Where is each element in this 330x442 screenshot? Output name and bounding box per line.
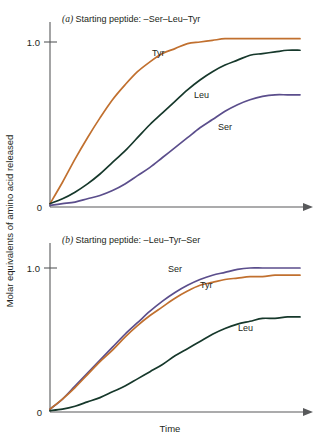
panel-a-title-text: Starting peptide: –Ser–Leu–Tyr <box>73 14 200 24</box>
curve-label-b-ser: Ser <box>168 264 182 274</box>
panel-b-ytick-label-1: 1.0 <box>27 263 40 274</box>
curve-label-b-leu: Leu <box>238 323 253 333</box>
panel-a-title: (a) Starting peptide: –Ser–Leu–Tyr <box>62 14 200 25</box>
panel-b-ytick-label-0: 0 <box>37 407 42 418</box>
figure-root: Molar equivalents of amino acid released… <box>0 0 330 442</box>
curve-label-a-ser: Ser <box>218 122 232 132</box>
y-axis-label: Molar equivalents of amino acid released <box>4 135 15 308</box>
panel-a-ytick-label-1: 1.0 <box>27 37 40 48</box>
panel-a-ytick-label-0: 0 <box>37 202 42 213</box>
panel-a-letter: (a) <box>62 14 73 25</box>
curve-label-b-tyr: Tyr <box>200 280 213 290</box>
curve-label-a-leu: Leu <box>194 90 209 100</box>
panel-b-title-text: Starting peptide: –Leu–Tyr–Ser <box>73 235 200 245</box>
panel-b-title: (b) Starting peptide: –Leu–Tyr–Ser <box>62 235 200 246</box>
curve-label-a-tyr: Tyr <box>152 48 165 58</box>
panel-b-letter: (b) <box>62 235 73 246</box>
x-axis-label: Time <box>160 423 181 434</box>
